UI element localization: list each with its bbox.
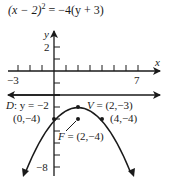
vertex-point	[76, 105, 80, 109]
parabola-diagram: (x − 2)2 = −4(y + 3) y 2 −8 x	[0, 0, 172, 178]
y-tick-label-neg8: −8	[36, 161, 48, 173]
x-axis: x −3 7	[7, 56, 160, 86]
equation-rhs: = −4(y + 3)	[45, 3, 103, 17]
point-0-neg4	[52, 117, 56, 121]
x-tick-label-7: 7	[134, 74, 140, 86]
directrix-label: D: y = −2	[5, 99, 49, 111]
x-axis-ticks	[18, 65, 138, 71]
equation-title: (x − 2)2 = −4(y + 3)	[8, 2, 104, 17]
y-axis-ticks	[54, 47, 60, 167]
y-axis-label: y	[43, 28, 49, 40]
vertex-label: V = (2,−3)	[87, 99, 133, 112]
parabola-arrow-left-icon	[22, 168, 29, 177]
focus-point	[76, 117, 80, 121]
point-4-neg4	[100, 117, 104, 121]
y-tick-label-2: 2	[44, 41, 50, 53]
point-label-4-neg4: (4,−4)	[110, 112, 138, 125]
point-label-0-neg4: (0,−4)	[13, 112, 41, 125]
x-axis-label: x	[154, 56, 160, 68]
equation-lhs: (x − 2)	[8, 3, 41, 17]
focus-label: F = (2,−4)	[57, 130, 104, 143]
x-tick-label-neg3: −3	[7, 74, 19, 86]
